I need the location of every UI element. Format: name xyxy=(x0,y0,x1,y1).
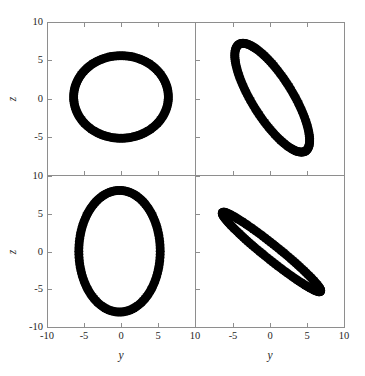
tick-x-topedge-r2 xyxy=(270,23,271,27)
tick-y-top-0 xyxy=(48,99,52,100)
ticklabel-y-top-0: 0 xyxy=(16,94,43,104)
tick-y-tr-10 xyxy=(196,22,200,23)
tick-y-bot-m5 xyxy=(48,289,52,290)
panel-bottom-right-plot xyxy=(196,176,344,328)
ticklabel-x-bl-m5: -5 xyxy=(69,331,99,341)
panel-top-left xyxy=(47,22,195,175)
ticklabel-y-top-m5: -5 xyxy=(16,132,43,142)
frame-right-edge xyxy=(344,22,345,328)
ticklabel-x-bl-0: 0 xyxy=(106,331,136,341)
tick-x-botr-m5 xyxy=(233,323,234,327)
axis-title-y-top: z xyxy=(6,86,18,112)
ticklabel-y-top-10: 10 xyxy=(16,17,43,27)
tick-x-topedge-l3 xyxy=(158,23,159,27)
panel-top-right xyxy=(196,22,344,175)
ticklabel-x-br-5: 5 xyxy=(292,331,322,341)
tick-y-bot-10 xyxy=(48,176,52,177)
axis-title-x-right: y xyxy=(255,349,285,361)
tick-x-bot-m10 xyxy=(47,323,48,327)
tick-x-topedge-l1 xyxy=(84,23,85,27)
tick-x-topedge-r3 xyxy=(307,23,308,27)
tick-x-bot-10 xyxy=(195,323,196,327)
tick-x-middivider-r3 xyxy=(307,171,308,175)
tick-x-botr-10 xyxy=(344,323,345,327)
frame-left-edge xyxy=(47,22,48,328)
tick-y-bot-0 xyxy=(48,252,52,253)
panel-top-left-plot xyxy=(47,22,195,175)
tick-y-top-5 xyxy=(48,60,52,61)
frame-center-edge xyxy=(195,22,196,328)
tick-y-bot-m10 xyxy=(48,327,52,328)
tick-y-br-10 xyxy=(196,176,200,177)
tick-x-botr-5 xyxy=(307,323,308,327)
data-point xyxy=(156,250,165,259)
panel-top-right-plot xyxy=(196,22,344,175)
tick-y-br-m5 xyxy=(196,289,200,290)
tick-x-middivider-l3 xyxy=(158,171,159,175)
ticklabel-x-bl-m10: -10 xyxy=(32,331,62,341)
data-point xyxy=(300,147,309,156)
tick-x-topedge-l2 xyxy=(121,23,122,27)
tick-y-bot-5 xyxy=(48,214,52,215)
data-point xyxy=(316,287,325,296)
tick-x-bot-m5 xyxy=(84,323,85,327)
tick-y-tr-5 xyxy=(196,60,200,61)
tick-x-middivider-l2 xyxy=(121,171,122,175)
tick-x-bot-5 xyxy=(158,323,159,327)
ticklabel-x-bl-10: 10 xyxy=(180,331,210,341)
panel-bottom-right xyxy=(196,176,344,328)
tick-x-topedge-r1 xyxy=(233,23,234,27)
tick-y-top-m5 xyxy=(48,137,52,138)
tick-x-botr-0 xyxy=(270,323,271,327)
ticklabel-x-br-m5: -5 xyxy=(218,331,248,341)
frame-bottom-edge xyxy=(47,327,345,328)
axis-title-x-left: y xyxy=(106,349,136,361)
ticklabel-y-bot-5: 5 xyxy=(16,209,43,219)
tick-x-middivider-r1 xyxy=(233,171,234,175)
axis-title-y-bottom: z xyxy=(6,239,18,265)
ticklabel-y-bot-0: 0 xyxy=(16,247,43,257)
panel-bottom-left xyxy=(47,176,195,328)
ticklabel-y-bot-m5: -5 xyxy=(16,284,43,294)
scatter-figure: 10 5 0 -5 10 5 0 -5 -10 -10 -5 0 5 10 -5… xyxy=(0,0,365,376)
ticklabel-y-bot-10: 10 xyxy=(16,171,43,181)
tick-y-tr-m5 xyxy=(196,137,200,138)
data-point xyxy=(164,95,173,104)
ticklabel-x-br-0: 0 xyxy=(255,331,285,341)
tick-y-tr-0 xyxy=(196,99,200,100)
tick-x-middivider-r2 xyxy=(270,171,271,175)
tick-x-middivider-l1 xyxy=(84,171,85,175)
ticklabel-x-br-10: 10 xyxy=(329,331,359,341)
tick-y-br-0 xyxy=(196,252,200,253)
tick-x-bot-0 xyxy=(121,323,122,327)
ticklabel-y-top-5: 5 xyxy=(16,55,43,65)
tick-y-br-5 xyxy=(196,214,200,215)
panel-bottom-left-plot xyxy=(47,176,195,328)
tick-y-top-10 xyxy=(48,22,52,23)
ticklabel-x-bl-5: 5 xyxy=(143,331,173,341)
